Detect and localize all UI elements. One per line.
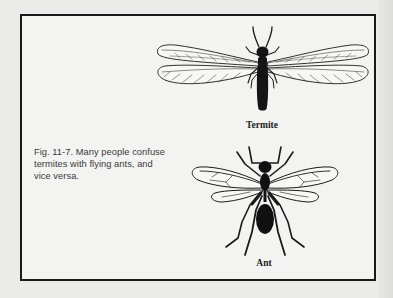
figure-caption: Fig. 11-7. Many people confuse termites … bbox=[34, 146, 194, 183]
caption-line-2: termites with flying ants, and bbox=[34, 159, 153, 169]
termite-illustration bbox=[158, 27, 369, 111]
winged-ant-illustration bbox=[192, 147, 338, 255]
ant-label: Ant bbox=[256, 258, 271, 268]
caption-line-3: vice versa. bbox=[34, 171, 79, 181]
termite-label: Termite bbox=[246, 120, 278, 130]
caption-line-1: Fig. 11-7. Many people confuse bbox=[34, 147, 165, 157]
